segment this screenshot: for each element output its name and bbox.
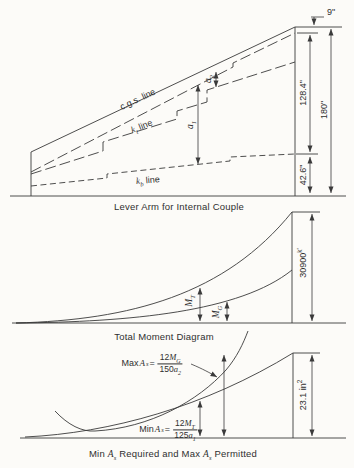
dim-231-label: 23.1 in2 bbox=[299, 380, 309, 411]
kb-line bbox=[31, 154, 295, 186]
max-as-formula: Max As = 12MG 150a2 bbox=[121, 353, 182, 374]
dim-9-label: 9" bbox=[327, 8, 335, 18]
dim-180-label: 180" bbox=[320, 101, 330, 119]
max-as-leader bbox=[191, 364, 217, 377]
max-as-fraction: 12MG 150a2 bbox=[158, 353, 183, 374]
lever-arm-caption: Lever Arm for Internal Couple bbox=[114, 202, 244, 212]
dim-42-label: 42.6" bbox=[299, 165, 309, 186]
kb-line-label: kb line bbox=[136, 175, 161, 187]
mg-label: MG bbox=[211, 306, 221, 319]
steel-area-caption: Min As Required and Max As Permitted bbox=[89, 449, 257, 459]
moment-caption: Total Moment Diagram bbox=[114, 332, 214, 342]
min-as-formula: Min As = 12MT 125a1 bbox=[139, 419, 197, 440]
min-as-fraction: 12MT 125a1 bbox=[173, 419, 197, 440]
beam-top-edge bbox=[31, 27, 295, 152]
mt-label: MT bbox=[184, 295, 194, 307]
dim-128-label: 128.4" bbox=[299, 80, 309, 106]
mg-curve bbox=[16, 270, 292, 323]
kt-line bbox=[31, 62, 295, 174]
mt-curve bbox=[16, 212, 292, 323]
a2-label: a2 bbox=[203, 75, 213, 83]
a1-label: a1 bbox=[185, 121, 195, 129]
lever-arm-diagram bbox=[10, 17, 346, 196]
figure-page: c.g.s. line kt line kb line a1 a2 9" 128… bbox=[0, 0, 354, 468]
dim-30900-label: 30900k' bbox=[299, 248, 309, 278]
cgs-line bbox=[31, 33, 295, 172]
moment-diagram bbox=[12, 212, 346, 323]
